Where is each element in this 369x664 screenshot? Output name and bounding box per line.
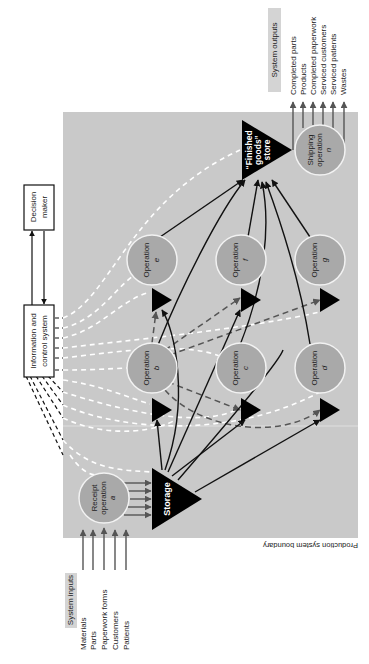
storage-label: Storage (162, 482, 172, 516)
output-item: Products (299, 63, 308, 95)
shipping-line1: Shipping (306, 134, 315, 165)
output-item: Completed parts (289, 36, 298, 95)
production-system-diagram: Storage “Finished goods” store Receipt o… (0, 0, 369, 664)
operation-label: Operation (231, 350, 240, 385)
information-control-box: Information and control system (24, 305, 54, 377)
boundary-label: Production system boundary (263, 541, 358, 550)
receipt-letter: a (108, 495, 117, 500)
operation-letter: g (320, 257, 329, 262)
decision-info-arrows (32, 231, 44, 305)
decision-line2: maker (40, 196, 49, 219)
operation-letter: e (152, 257, 161, 262)
input-item: Materials (79, 618, 88, 650)
operation-label: Operation (310, 350, 319, 385)
operation-c-node: Operation c (216, 343, 266, 393)
input-item: Parts (89, 631, 98, 650)
operation-label: Operation (142, 350, 151, 385)
operation-letter: d (320, 365, 329, 370)
receipt-line2: operation (99, 481, 108, 514)
output-item: Completed paperwork (309, 16, 318, 95)
finished-goods-line3: store (262, 139, 272, 160)
operation-label: Operation (310, 242, 319, 277)
receipt-line1: Receipt (90, 484, 99, 512)
inputs-title: System inputs (66, 575, 75, 625)
input-item: Customers (111, 611, 120, 650)
decision-line1: Decision (29, 192, 38, 223)
system-inputs: System inputs Materials Parts Paperwork … (65, 573, 131, 650)
input-item: Patients (122, 621, 131, 650)
receipt-operation-node: Receipt operation a (79, 473, 129, 523)
operation-letter: c (241, 366, 250, 370)
operation-label: Operation (142, 242, 151, 277)
outputs-title: System outputs (270, 22, 279, 77)
info-line2: control system (40, 315, 49, 367)
operation-f-node: Operation f (216, 235, 266, 285)
shipping-letter: n (324, 147, 333, 152)
output-item: Serviced patients (329, 34, 338, 95)
system-outputs: System outputs Completed parts Products … (268, 8, 348, 95)
operation-letter: b (152, 365, 161, 370)
output-item: Wastes (339, 69, 348, 95)
operation-e-node: Operation e (127, 235, 177, 285)
info-line1: Information and (29, 313, 38, 369)
operation-b-node: Operation b (127, 343, 177, 393)
input-item: Paperwork forms (100, 590, 109, 650)
shipping-operation-node: Shipping operation n (295, 125, 345, 175)
decision-maker-box: Decision maker (24, 185, 54, 230)
operation-g-node: Operation g (295, 235, 345, 285)
operation-d-node: Operation d (295, 343, 345, 393)
shipping-line2: operation (315, 133, 324, 166)
operation-label: Operation (231, 242, 240, 277)
output-item: Serviced customers (319, 25, 328, 95)
